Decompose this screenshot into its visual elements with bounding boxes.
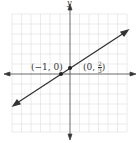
point-label-suffix: ) <box>102 62 106 72</box>
point-label-0-two-thirds: (0, 23) <box>83 61 105 74</box>
point-label-prefix: (0, <box>83 62 95 72</box>
grid <box>12 14 127 132</box>
y-axis-label: y <box>67 0 72 7</box>
point-label-neg1-0: (−1, 0) <box>31 63 63 72</box>
point-0-two-thirds <box>68 66 72 70</box>
line-lower-arrow-icon <box>13 100 20 106</box>
y-axis-down-arrow-icon <box>68 134 72 140</box>
x-axis-right-arrow-icon <box>130 72 136 76</box>
coordinate-plane <box>0 0 139 143</box>
point-neg1-0 <box>59 72 63 76</box>
axes <box>4 4 136 140</box>
x-axis-left-arrow-icon <box>4 72 10 76</box>
